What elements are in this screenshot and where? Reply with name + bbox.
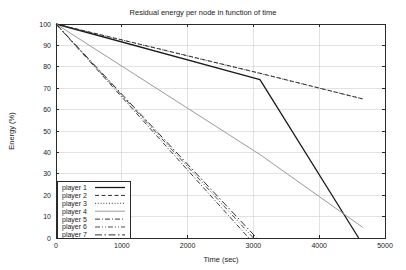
legend-item-1[interactable] [57,184,130,192]
y-axis-tick-labels: 0102030405060708090100 [39,21,51,242]
y-tick-label: 100 [39,21,51,28]
x-tick-label: 5000 [377,242,393,249]
x-axis-tick-labels: 010002000300040005000 [54,242,393,249]
y-tick-label: 70 [43,85,51,92]
chart-title: Residual energy per node in function of … [130,8,277,17]
y-tick-label: 50 [43,128,51,135]
legend-item-4[interactable] [57,207,130,215]
y-tick-label: 60 [43,106,51,113]
y-tick-label: 20 [43,192,51,199]
y-tick-label: 0 [47,235,51,242]
chart-legend[interactable]: player 1player 2player 3player 4player 5… [57,181,130,239]
legend-item-5[interactable] [57,215,130,223]
legend-item-6[interactable] [57,223,130,231]
y-tick-label: 10 [43,213,51,220]
y-axis-title: Energy (%) [7,112,16,150]
y-tick-label: 90 [43,42,51,49]
y-tick-label: 30 [43,170,51,177]
legend-item-7[interactable] [57,231,130,239]
chart-figure: 0102030405060708090100 01000200030004000… [0,0,406,270]
chart-canvas: 0102030405060708090100 01000200030004000… [0,0,406,270]
x-tick-label: 3000 [246,242,262,249]
x-tick-label: 0 [54,242,58,249]
x-tick-label: 4000 [311,242,327,249]
x-tick-label: 1000 [114,242,130,249]
legend-item-2[interactable] [57,191,130,199]
y-tick-label: 40 [43,149,51,156]
legend-item-3[interactable] [57,199,130,207]
x-tick-label: 2000 [180,242,196,249]
y-tick-label: 80 [43,63,51,70]
series-line-2 [56,24,363,99]
x-axis-title: Time (sec) [203,255,239,264]
